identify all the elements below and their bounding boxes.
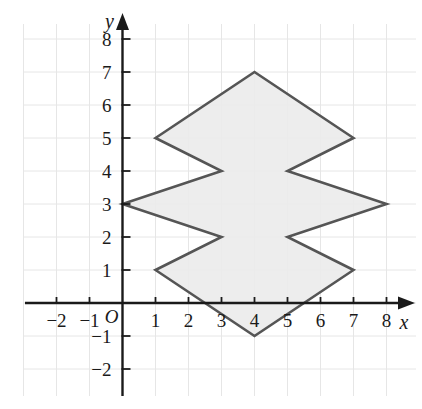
- y-tick-label: 3: [102, 194, 112, 215]
- y-tick-label: 6: [102, 95, 112, 116]
- y-tick-label: −2: [91, 359, 111, 380]
- y-axis-arrowhead: [116, 13, 129, 30]
- x-tick-label: 8: [382, 310, 392, 331]
- x-tick-label: 1: [151, 310, 161, 331]
- y-tick-label: 2: [102, 227, 112, 248]
- coordinate-plane-figure: −2−112345678−2−112345678 x y O: [0, 0, 422, 409]
- shaded-zigzag-polygon: [123, 72, 387, 336]
- y-tick-label: 5: [102, 128, 112, 149]
- y-tick-label: −1: [91, 326, 111, 347]
- y-axis-label: y: [103, 10, 114, 33]
- x-tick-label: 7: [349, 310, 359, 331]
- x-axis-label: x: [399, 311, 409, 333]
- origin-label: O: [105, 306, 119, 327]
- x-tick-label: 3: [217, 310, 227, 331]
- y-tick-label: 8: [102, 29, 112, 50]
- x-tick-label: 2: [184, 310, 194, 331]
- y-tick-label: 7: [102, 62, 112, 83]
- x-axis-arrowhead: [398, 297, 415, 310]
- x-tick-label: 5: [283, 310, 293, 331]
- x-tick-label: 6: [316, 310, 326, 331]
- y-tick-label: 1: [102, 260, 112, 281]
- x-tick-label: 4: [250, 310, 260, 331]
- x-tick-label: −2: [46, 310, 66, 331]
- y-tick-label: 4: [102, 161, 112, 182]
- plot-canvas: −2−112345678−2−112345678 x y O: [0, 0, 422, 409]
